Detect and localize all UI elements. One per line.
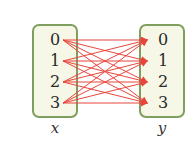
mapping-arrows [0, 0, 195, 150]
